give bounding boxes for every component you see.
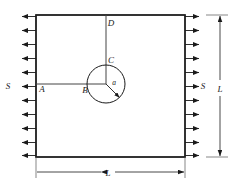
- dimension-label-right: L: [216, 84, 222, 94]
- dimension-label-bottom: L: [104, 168, 110, 178]
- traction-left-group: S: [6, 15, 36, 157]
- dimension-bottom-group: L: [36, 157, 185, 178]
- stress-label-left: S: [6, 81, 11, 91]
- point-label-D: D: [107, 18, 115, 28]
- point-label-C: C: [108, 55, 115, 65]
- plate-square: [36, 15, 185, 157]
- figure-container: S S a: [0, 0, 235, 190]
- plate-outline: [36, 15, 185, 157]
- dimension-right-group: L: [206, 15, 228, 157]
- point-label-A: A: [38, 84, 45, 94]
- stress-label-right: S: [201, 81, 206, 91]
- traction-right-group: S: [185, 15, 206, 157]
- plate-tension-diagram: S S a: [0, 0, 235, 190]
- point-label-B: B: [82, 85, 88, 95]
- radius-label: a: [112, 78, 116, 87]
